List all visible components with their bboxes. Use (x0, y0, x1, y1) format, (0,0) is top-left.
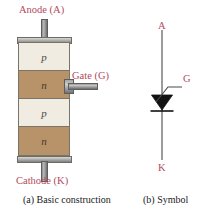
symbol-anode-label: A (158, 21, 166, 32)
gate-lead (68, 83, 98, 90)
symbol-cathode-label: K (158, 163, 166, 174)
semiconductor-layer-stack: p n p n (18, 42, 70, 156)
layer-char: n (41, 79, 47, 91)
caption-symbol: (b) Symbol (143, 194, 188, 205)
caption-basic-construction: (a) Basic construction (23, 194, 111, 205)
basic-construction-diagram: Anode (A) p n p n Gate (G) Cathode (K) (0, 0, 120, 188)
layer-p-2: p (19, 99, 69, 127)
anode-label: Anode (A) (19, 5, 64, 16)
layer-char: n (41, 135, 47, 147)
layer-char: p (41, 107, 47, 119)
cathode-label: Cathode (K) (16, 176, 68, 187)
layer-char: p (41, 51, 47, 63)
gate-label: Gate (G) (72, 71, 109, 82)
layer-p-1: p (19, 43, 69, 71)
layer-n-1: n (19, 71, 69, 99)
scr-figure: Anode (A) p n p n Gate (G) Cathode (K) (0, 0, 205, 213)
layer-n-2: n (19, 127, 69, 155)
symbol-gate-label: G (183, 74, 191, 85)
scr-symbol-diagram: A K G (120, 0, 205, 188)
symbol-triangle-icon (152, 95, 173, 110)
